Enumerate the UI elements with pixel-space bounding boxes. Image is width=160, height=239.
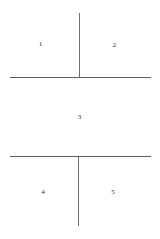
panel-4[interactable]: 4 [10, 157, 79, 226]
diagram-canvas: 1 2 3 4 5 [0, 0, 160, 239]
panel-5[interactable]: 5 [79, 157, 151, 226]
panel-2-label: 2 [113, 42, 117, 49]
panel-3-label: 3 [78, 114, 82, 121]
panel-5-label: 5 [111, 189, 115, 196]
panel-1[interactable]: 1 [10, 13, 80, 78]
panel-1-label: 1 [39, 41, 43, 48]
panel-3[interactable]: 3 [10, 78, 151, 157]
panel-4-label: 4 [41, 189, 45, 196]
panel-2[interactable]: 2 [80, 13, 151, 78]
